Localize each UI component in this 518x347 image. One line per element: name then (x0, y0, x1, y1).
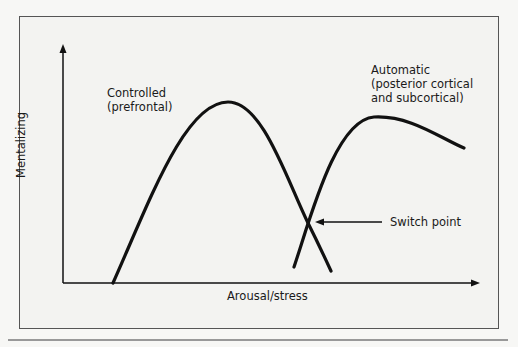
y-axis-label: Mentalizing (14, 112, 28, 178)
controlled-label-1: Controlled (107, 86, 166, 100)
x-axis-label: Arousal/stress (227, 289, 308, 303)
y-axis-arrowhead-icon (60, 44, 67, 53)
switch-point-label: Switch point (390, 215, 461, 229)
automatic-label-1: Automatic (371, 63, 430, 77)
switch-arrowhead-icon (315, 219, 324, 226)
automatic-label-3: and subcortical) (371, 91, 464, 105)
automatic-label-2: (posterior cortical (371, 77, 473, 91)
controlled-label-2: (prefrontal) (107, 100, 172, 114)
x-axis-arrowhead-icon (471, 280, 480, 287)
